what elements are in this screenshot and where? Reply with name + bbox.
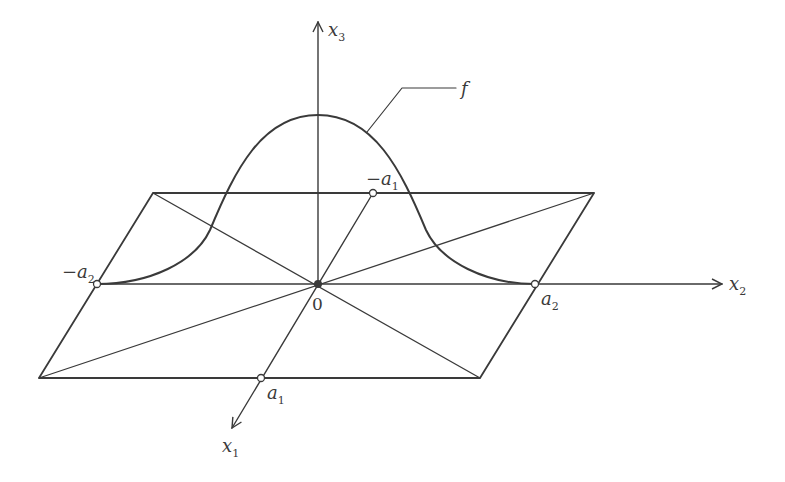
- curve-f-leader: [367, 88, 456, 132]
- x2-axis-label: x2: [729, 273, 746, 298]
- point-neg-a1-marker: [370, 190, 377, 197]
- point-a1-label: a1: [267, 382, 285, 407]
- curve-f-label: f: [459, 78, 471, 99]
- curve-f: [97, 115, 535, 284]
- point-neg-a1-label: −a1: [366, 168, 399, 193]
- point-a1-marker: [258, 375, 265, 382]
- point-a2-marker: [532, 281, 539, 288]
- origin-label: 0: [312, 294, 323, 314]
- bump-function-diagram: x3 x2 x1 f 0 −a2 a2 −a1 a1: [0, 0, 785, 482]
- point-a2-label: a2: [541, 288, 559, 313]
- point-neg-a2-label: −a2: [62, 261, 95, 286]
- origin-marker: [314, 280, 322, 288]
- x3-axis-label: x3: [328, 19, 345, 44]
- x1-axis: [232, 193, 373, 428]
- x1-axis-label: x1: [222, 435, 239, 460]
